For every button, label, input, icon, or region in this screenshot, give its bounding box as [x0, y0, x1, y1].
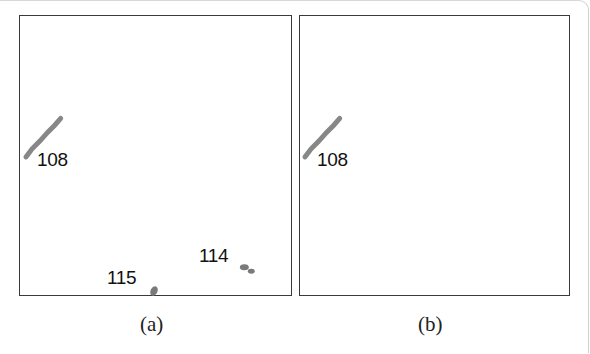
track-label-114: 114 [199, 246, 228, 265]
track-label-108: 108 [317, 150, 348, 169]
track-115-blob [149, 285, 159, 297]
panel-b: 108 [299, 15, 570, 296]
caption-b: (b) [418, 312, 443, 337]
caption-a: (a) [140, 312, 163, 337]
track-label-108: 108 [37, 150, 68, 169]
track-label-115: 115 [107, 268, 136, 287]
panel-a: 108 115 114 [19, 15, 292, 296]
track-114-blob [240, 264, 255, 273]
